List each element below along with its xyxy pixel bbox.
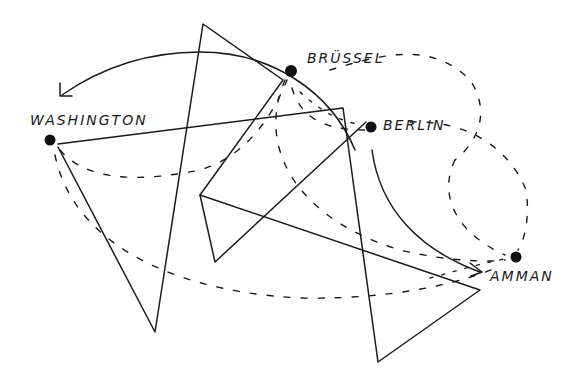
diagram-canvas: WASHINGTON BRÜSSEL BERLIN AMMAN bbox=[0, 0, 571, 392]
node-bruessel[interactable] bbox=[285, 65, 297, 77]
network-drawing bbox=[0, 0, 571, 392]
dashed-berlin-right bbox=[410, 122, 527, 250]
label-washington: WASHINGTON bbox=[30, 112, 148, 128]
dotted-bruessel-berlin-2 bbox=[300, 92, 362, 125]
label-amman: AMMAN bbox=[490, 268, 554, 284]
arc-berlin-amman bbox=[372, 150, 480, 272]
label-berlin: BERLIN bbox=[383, 117, 446, 133]
label-bruessel: BRÜSSEL bbox=[307, 50, 385, 66]
zigzag-path bbox=[58, 24, 366, 332]
dashed-berlin-loop bbox=[449, 160, 505, 255]
dashed-bruessel-amman bbox=[276, 80, 505, 261]
node-berlin[interactable] bbox=[366, 122, 377, 133]
node-amman[interactable] bbox=[511, 252, 522, 263]
node-washington[interactable] bbox=[45, 135, 56, 146]
